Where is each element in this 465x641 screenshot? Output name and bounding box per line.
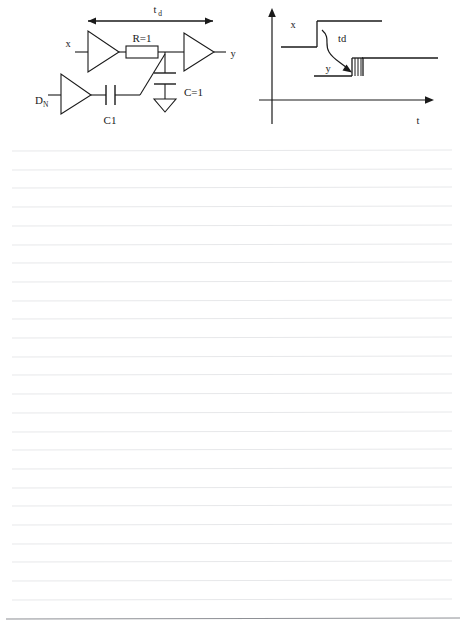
resistor-r1 <box>126 46 158 58</box>
diagonal-connection <box>140 54 165 95</box>
output-buffer <box>184 33 214 71</box>
rule-line <box>12 524 452 526</box>
rule-line <box>12 337 452 339</box>
rule-line <box>12 393 452 395</box>
rule-line <box>12 243 452 245</box>
delay-label: td <box>338 33 347 44</box>
input-buffer <box>88 31 119 72</box>
rule-line <box>12 467 452 469</box>
x-signal-label: x <box>290 19 296 30</box>
coupling-capacitor-label: C1 <box>104 114 117 126</box>
notebook-page: t d x R=1 y C=1 D N C1 <box>0 0 465 641</box>
rule-line <box>12 280 452 282</box>
ground-symbol <box>154 99 176 112</box>
rule-line <box>12 598 452 600</box>
rule-line <box>12 449 452 451</box>
noise-input-label: D <box>35 94 43 106</box>
rule-line <box>12 150 452 152</box>
rule-line <box>12 187 452 189</box>
rule-line <box>12 580 452 582</box>
output-label-y: y <box>230 48 236 59</box>
rule-line <box>12 505 452 507</box>
rule-line <box>12 430 452 432</box>
capacitor-ground-label: C=1 <box>184 86 203 98</box>
rule-line <box>12 542 452 544</box>
rule-line <box>12 318 452 320</box>
rule-line <box>12 224 452 226</box>
noise-input-label-sub: N <box>43 100 49 109</box>
y-waveform <box>314 58 438 76</box>
rule-line <box>12 411 452 413</box>
time-axis-label: t <box>417 115 420 126</box>
ruled-lines-area <box>0 140 465 641</box>
delay-span-label: t <box>154 4 157 15</box>
noise-buffer <box>61 74 91 114</box>
rule-line <box>12 262 452 264</box>
timing-diagram <box>259 8 438 124</box>
rule-line <box>12 299 452 301</box>
rule-line <box>12 561 452 563</box>
delay-span-label-sub: d <box>158 9 162 18</box>
rule-line <box>12 486 452 488</box>
bottom-rule-line <box>6 617 460 619</box>
value-axis-arrowhead <box>268 8 276 17</box>
rule-line <box>12 168 452 170</box>
jitter-hatch <box>355 58 361 76</box>
figure-svg: t d x R=1 y C=1 D N C1 <box>0 0 465 140</box>
rule-line <box>12 374 452 376</box>
rule-line <box>12 206 452 208</box>
y-signal-label: y <box>325 63 331 74</box>
x-waveform <box>281 21 382 47</box>
rule-line <box>12 355 452 357</box>
time-axis-arrowhead <box>425 96 434 104</box>
resistor-label: R=1 <box>132 32 151 44</box>
delay-span-arrow <box>88 18 213 25</box>
figure-area: t d x R=1 y C=1 D N C1 <box>0 0 465 140</box>
input-label-x: x <box>65 38 71 49</box>
